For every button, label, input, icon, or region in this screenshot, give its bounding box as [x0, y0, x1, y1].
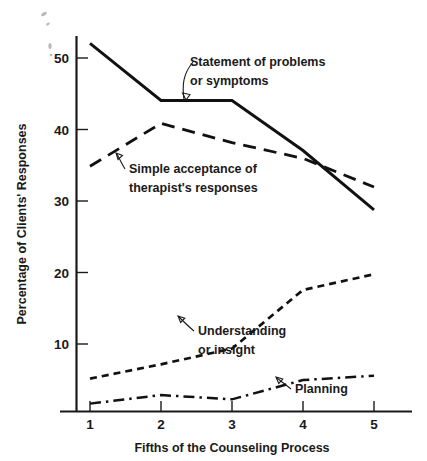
leader-acceptance-arrowhead [116, 153, 123, 160]
x-axis-tick-labels: 1 2 3 4 5 [86, 417, 378, 432]
x-tick-label-3: 3 [228, 417, 236, 432]
y-axis-ticks [77, 58, 89, 344]
y-tick-label-10: 10 [54, 337, 69, 352]
y-axis-tick-labels: 50 40 30 20 10 [54, 51, 69, 352]
x-axis-ticks [90, 401, 374, 412]
chart-canvas: 50 40 30 20 10 1 2 3 4 5 Fifths of the C… [0, 0, 427, 461]
scan-artifacts [40, 11, 52, 56]
x-tick-label-4: 4 [299, 417, 307, 432]
x-tick-label-5: 5 [370, 417, 378, 432]
annotation-leaders [116, 62, 291, 389]
annotation-statement-line-2: or symptoms [190, 74, 269, 88]
annotation-understanding-line-1: Understanding [198, 324, 286, 338]
y-axis-title: Percentage of Clients' Responses [15, 123, 29, 324]
annotation-understanding-line-2: or insight [198, 343, 256, 357]
leader-understanding [179, 317, 194, 331]
x-tick-label-2: 2 [157, 417, 165, 432]
annotation-acceptance-line-2: therapist's responses [129, 181, 258, 195]
x-axis-title: Fifths of the Counseling Process [134, 441, 329, 455]
chart-figure: 50 40 30 20 10 1 2 3 4 5 Fifths of the C… [0, 0, 427, 461]
y-tick-label-50: 50 [54, 51, 69, 66]
y-tick-label-20: 20 [54, 266, 69, 281]
x-tick-label-1: 1 [86, 417, 94, 432]
annotation-statement-line-1: Statement of problems [190, 55, 325, 69]
annotation-acceptance-line-1: Simple acceptance of [129, 162, 258, 176]
series-simple-acceptance [90, 123, 374, 187]
y-tick-label-30: 30 [54, 194, 69, 209]
annotation-planning-line-1: Planning [295, 382, 348, 396]
y-tick-label-40: 40 [54, 123, 69, 138]
